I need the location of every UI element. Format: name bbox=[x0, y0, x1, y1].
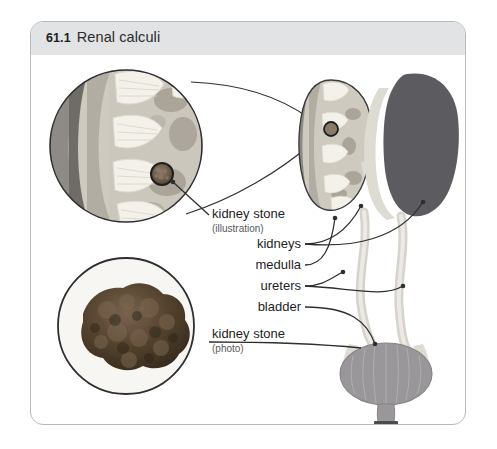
small-kidney-stone bbox=[324, 122, 338, 136]
figure-frame: 61.1Renal calculi bbox=[30, 21, 466, 425]
label-bladder: bladder bbox=[258, 300, 301, 314]
magnifier-connector-lines bbox=[186, 82, 311, 214]
label-kidneys: kidneys bbox=[257, 237, 301, 251]
label-medulla-text: medulla bbox=[255, 257, 301, 272]
whole-kidney-silhouette bbox=[364, 73, 459, 220]
label-bladder-text: bladder bbox=[258, 299, 301, 314]
label-ureters-text: ureters bbox=[261, 278, 301, 293]
label-kidney-stone-photo-text: kidney stone bbox=[212, 326, 285, 341]
bladder-organ bbox=[340, 343, 432, 425]
label-kidney-stone-illustration: kidney stone (illustration) bbox=[212, 207, 285, 236]
label-kidney-stone-illustration-sub: (illustration) bbox=[212, 222, 285, 236]
leader-ureters-right bbox=[305, 286, 403, 292]
magnified-kidney-stone bbox=[151, 163, 173, 185]
label-kidney-stone-illustration-text: kidney stone bbox=[212, 206, 285, 221]
label-kidneys-text: kidneys bbox=[257, 236, 301, 251]
figure-root: 61.1Renal calculi bbox=[0, 0, 497, 449]
magnified-kidney-section bbox=[50, 69, 219, 230]
kidney-stone-photo-image bbox=[58, 258, 194, 394]
label-medulla: medulla bbox=[255, 258, 301, 272]
leader-kidneys-left bbox=[305, 206, 361, 244]
leader-ureters-left bbox=[305, 272, 343, 286]
label-kidney-stone-photo-sub: (photo) bbox=[212, 342, 285, 356]
label-ureters: ureters bbox=[261, 279, 301, 293]
label-kidney-stone-photo: kidney stone (photo) bbox=[212, 327, 285, 356]
